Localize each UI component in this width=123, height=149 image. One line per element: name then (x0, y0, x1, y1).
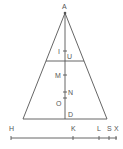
label-h: H (9, 125, 14, 132)
label-m: M (55, 72, 61, 79)
label-k: K (71, 125, 76, 132)
label-d: D (68, 111, 73, 118)
diagram-canvas: A I U M N O D H K L S X (0, 0, 123, 149)
label-s: S (107, 125, 112, 132)
label-u: U (67, 53, 72, 60)
label-n: N (68, 89, 73, 96)
label-a: A (62, 3, 67, 10)
label-i: I (58, 48, 60, 55)
label-o: O (56, 100, 62, 107)
label-x: X (114, 125, 119, 132)
apex-dot (64, 12, 67, 15)
label-l: L (97, 125, 101, 132)
